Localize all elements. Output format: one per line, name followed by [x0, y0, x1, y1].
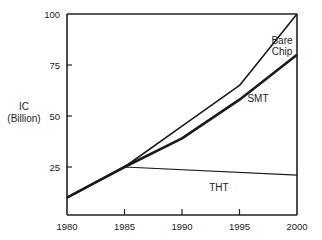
y-tick-label: 50 — [49, 111, 60, 122]
x-tick-label: 1990 — [171, 221, 192, 232]
line-chart: 25507510019801985199019952000IC(Billion)… — [0, 0, 322, 240]
x-tick-label: 1995 — [229, 221, 250, 232]
x-tick-label: 1985 — [114, 221, 135, 232]
y-tick-label: 25 — [49, 162, 60, 173]
series-lines — [67, 14, 297, 198]
series-line-tht — [67, 167, 297, 198]
y-tick-label: 75 — [49, 60, 60, 71]
y-axis-label: (Billion) — [7, 113, 40, 124]
y-axis-label: IC — [19, 101, 29, 112]
chart-container: 25507510019801985199019952000IC(Billion)… — [0, 0, 322, 240]
series-label: SMT — [247, 93, 268, 104]
axes: 25507510019801985199019952000IC(Billion) — [7, 9, 307, 233]
labels: BareChipSMTTHT — [209, 35, 293, 193]
x-tick-label: 2000 — [286, 221, 307, 232]
series-label: THT — [209, 182, 228, 193]
series-label: Chip — [272, 46, 293, 57]
series-label: Bare — [271, 35, 293, 46]
y-tick-label: 100 — [44, 9, 60, 20]
x-tick-label: 1980 — [56, 221, 77, 232]
